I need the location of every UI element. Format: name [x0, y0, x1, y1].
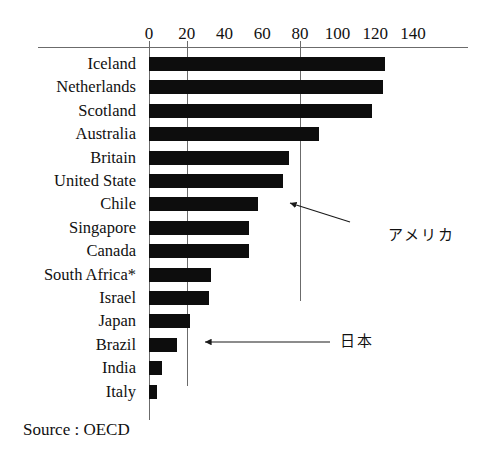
bar-italy	[149, 385, 157, 399]
category-label-britain: Britain	[90, 150, 136, 167]
category-label-israel: Israel	[99, 290, 136, 307]
x-tick-label-80: 80	[291, 25, 308, 42]
bar-australia	[149, 127, 319, 141]
category-label-netherlands: Netherlands	[56, 79, 136, 96]
bar-south-africa	[149, 268, 211, 282]
bar-netherlands	[149, 80, 383, 94]
bar-india	[149, 361, 162, 375]
category-label-canada: Canada	[87, 243, 136, 260]
category-label-italy: Italy	[106, 384, 136, 401]
bar-israel	[149, 291, 209, 305]
category-label-united-state: United State	[54, 173, 136, 190]
bar-iceland	[149, 57, 385, 71]
bar-united-state	[149, 174, 283, 188]
bar-chart: 020406080100120140 IcelandNetherlandsSco…	[0, 0, 501, 459]
category-label-scotland: Scotland	[78, 103, 136, 120]
x-tick-label-20: 20	[178, 25, 195, 42]
category-label-iceland: Iceland	[87, 56, 136, 73]
bar-britain	[149, 151, 289, 165]
category-label-india: India	[102, 360, 136, 377]
bar-brazil	[149, 338, 177, 352]
x-tick-label-0: 0	[145, 25, 154, 42]
annotation-label-japan: 日本	[340, 334, 374, 349]
x-tick-label-120: 120	[363, 25, 389, 42]
x-tick-label-60: 60	[254, 25, 271, 42]
category-label-south-africa: South Africa*	[44, 267, 136, 284]
x-tick-label-40: 40	[216, 25, 233, 42]
category-label-singapore: Singapore	[69, 220, 136, 237]
bar-japan	[149, 314, 190, 328]
bar-canada	[149, 244, 249, 258]
bar-scotland	[149, 104, 372, 118]
category-label-chile: Chile	[100, 196, 136, 213]
x-tick-label-100: 100	[325, 25, 351, 42]
category-axis: IcelandNetherlandsScotlandAustraliaBrita…	[0, 0, 146, 459]
source-note: Source : OECD	[23, 421, 130, 438]
bar-singapore	[149, 221, 249, 235]
bar-chile	[149, 197, 258, 211]
category-label-australia: Australia	[76, 126, 136, 143]
x-tick-label-140: 140	[400, 25, 426, 42]
annotation-label-america: アメリカ	[388, 228, 455, 243]
category-label-brazil: Brazil	[96, 337, 136, 354]
category-label-japan: Japan	[98, 313, 136, 330]
